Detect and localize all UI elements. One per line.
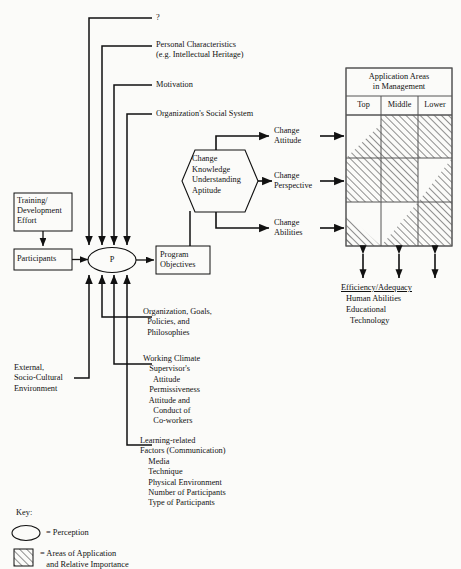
box-label-training: Training/ Development Effort <box>17 196 75 227</box>
connector-org-social-system <box>127 114 152 245</box>
label-change-attitude: Change Attitude <box>274 126 301 147</box>
matrix-column-top: Top <box>346 100 381 109</box>
matrix-column-middle: Middle <box>381 100 418 109</box>
box-label-participants: Participants <box>17 254 75 264</box>
matrix-cell-r2-lower-hatch <box>418 202 452 246</box>
matrix-cell-r0-top-hatch <box>346 124 381 158</box>
key-hatched-square-icon <box>14 549 33 566</box>
matrix-cell-r1-lower-hatch <box>418 158 452 202</box>
matrix-cell-r1-top-hatch <box>346 158 381 202</box>
label-change-perspective: Change Perspective <box>274 171 312 192</box>
matrix-cell-r0-lower-hatch <box>418 115 452 158</box>
matrix-cell-r2-middle-hatch <box>381 202 418 246</box>
connector-hexagon-to-change-attitude <box>216 136 269 150</box>
connector-external-socio-cultural <box>74 275 89 378</box>
key-ellipse-icon <box>12 526 40 541</box>
matrix-cell-r1-middle-hatch <box>381 158 418 202</box>
label-external-socio-cultural: External, Socio-Cultural Environment <box>14 363 63 394</box>
matrix-title: Application Areas in Management <box>346 72 452 93</box>
key-item-areas-label: = Areas of Application and Relative Impo… <box>40 549 129 569</box>
matrix-column-lower: Lower <box>418 100 452 109</box>
label-org-goals-policies: Organization, Goals, Policies, and Philo… <box>143 307 212 338</box>
connector-unknown <box>89 18 152 245</box>
key-item-perception-label: = Perception <box>46 528 89 539</box>
change-hexagon-label: Change Knowledge Understanding Aptitude <box>192 154 241 196</box>
label-personal-characteristics: Personal Characteristics (e.g. Intellect… <box>156 40 244 61</box>
matrix-cell-r2-top-hatch-b <box>346 214 381 246</box>
key-title: Key: <box>16 508 32 519</box>
diagram-root: Training/ Development Effort Participant… <box>0 0 461 569</box>
matrix-cell-r0-middle-hatch <box>381 115 418 158</box>
label-working-climate: Working Climate Supervisor's Attitude Pe… <box>143 354 200 427</box>
perception-node-label: P <box>100 255 124 265</box>
label-org-social-system: Organization's Social System <box>156 109 253 119</box>
connector-motivation <box>114 85 152 245</box>
box-label-program-objectives: Program Objectives <box>160 250 210 270</box>
matrix-footer-line-1: Human Abilities <box>346 294 401 305</box>
label-change-abilities: Change Abilities <box>274 218 303 239</box>
label-unknown: ? <box>156 13 160 23</box>
label-learning-related-factors: Learning-related Factors (Communication)… <box>140 436 226 509</box>
connector-hexagon-to-change-abilities <box>216 212 269 228</box>
matrix-footer-line-3: Technology <box>346 316 389 327</box>
label-motivation: Motivation <box>156 80 193 90</box>
matrix-footer-heading: Efficiency/Adequacy <box>341 283 412 294</box>
matrix-footer-line-2: Educational <box>346 305 386 316</box>
